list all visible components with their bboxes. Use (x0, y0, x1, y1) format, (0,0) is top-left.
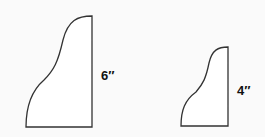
small-shape (181, 47, 228, 126)
diagram-canvas (0, 0, 265, 137)
large-shape (26, 16, 92, 127)
large-shape-height-label: 6″ (101, 69, 114, 82)
small-shape-height-label: 4″ (237, 84, 250, 97)
